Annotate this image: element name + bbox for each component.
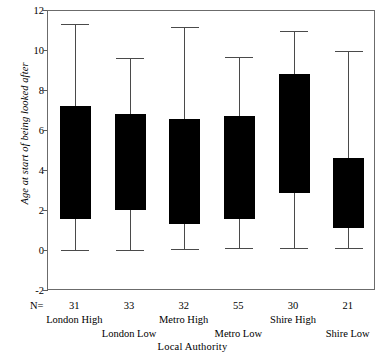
y-tick-label: 6 (0, 125, 44, 136)
whisker-cap-bottom (280, 248, 308, 249)
box-rect (279, 74, 310, 193)
y-tick-label: 4 (0, 165, 44, 176)
y-tick-label: 0 (0, 245, 44, 256)
y-tick-label: 10 (0, 45, 44, 56)
box-rect (169, 119, 200, 224)
y-tick-label: 8 (0, 85, 44, 96)
x-axis-title: Local Authority (0, 341, 385, 352)
whisker-cap-top (225, 57, 253, 58)
category-label: Shire High (270, 314, 316, 325)
box-rect (60, 106, 91, 219)
whisker-cap-top (116, 58, 144, 59)
n-value-label: 21 (342, 300, 353, 311)
y-tick-label: 2 (0, 205, 44, 216)
category-label: Metro High (159, 314, 208, 325)
whisker-cap-bottom (61, 250, 89, 251)
category-label: Shire Low (326, 328, 370, 339)
n-value-label: 55 (233, 300, 244, 311)
category-label: London High (46, 314, 102, 325)
whisker-cap-top (335, 51, 363, 52)
y-tick-label: 12 (0, 5, 44, 16)
whisker-cap-top (280, 31, 308, 32)
n-value-label: 33 (124, 300, 135, 311)
whisker-cap-top (61, 24, 89, 25)
n-prefix-label: N= (30, 300, 44, 311)
whisker-cap-top (171, 27, 199, 28)
box-rect (115, 114, 146, 210)
whisker-cap-bottom (171, 249, 199, 250)
y-tick-mark (43, 290, 48, 291)
plot-area (47, 10, 375, 290)
box-rect (224, 116, 255, 219)
n-value-label: 31 (69, 300, 80, 311)
whisker-cap-bottom (116, 250, 144, 251)
whisker-cap-bottom (225, 248, 253, 249)
category-label: London Low (102, 328, 157, 339)
category-label: Metro Low (215, 328, 263, 339)
y-tick-label: -2 (0, 285, 44, 296)
box-plot-figure: Age at start of being looked after 12108… (0, 0, 385, 359)
whisker-cap-bottom (335, 248, 363, 249)
n-value-label: 32 (178, 300, 189, 311)
box-rect (333, 158, 364, 228)
n-value-label: 30 (288, 300, 299, 311)
